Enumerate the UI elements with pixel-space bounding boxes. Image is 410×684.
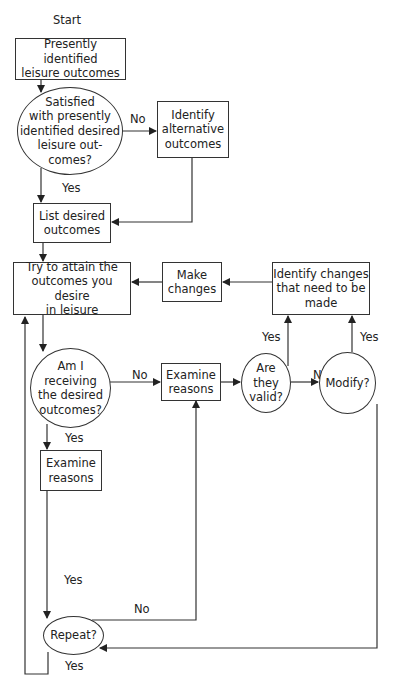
repeat-decision: Repeat? xyxy=(43,616,104,655)
examine-reasons-no-text: Examine reasons xyxy=(166,368,216,397)
modify-decision-text: Modify? xyxy=(325,376,369,391)
try-attain-box: Try to attain the outcomes you desire in… xyxy=(13,262,131,315)
satisfied-decision: Satisfied with presently identified desi… xyxy=(17,87,123,175)
list-desired-text: List desired outcomes xyxy=(39,209,105,238)
repeat-no-label: No xyxy=(134,602,150,617)
receiving-yes-label: Yes xyxy=(65,431,84,446)
satisfied-decision-text: Satisfied with presently identified desi… xyxy=(20,95,120,168)
to-repeat-yes-label: Yes xyxy=(64,573,83,588)
receiving-no-label: No xyxy=(132,368,148,383)
identify-alternative-text: Identify alternative outcomes xyxy=(162,108,224,152)
make-changes-box: Make changes xyxy=(162,262,222,302)
modify-decision: Modify? xyxy=(319,352,376,414)
satisfied-yes-label: Yes xyxy=(62,181,81,196)
examine-reasons-yes-text: Examine reasons xyxy=(46,456,96,485)
valid-yes-label: Yes xyxy=(262,330,281,345)
repeat-yes-label: Yes xyxy=(65,659,84,674)
try-attain-text: Try to attain the outcomes you desire in… xyxy=(14,260,130,318)
present-outcomes-text: Presently identified leisure outcomes xyxy=(16,37,125,81)
valid-decision-text: Are they valid? xyxy=(249,361,283,405)
modify-yes-label: Yes xyxy=(360,330,379,345)
identify-changes-text: Identify changes that need to be made xyxy=(273,267,368,311)
examine-reasons-no-box: Examine reasons xyxy=(161,363,221,401)
present-outcomes-box: Presently identified leisure outcomes xyxy=(15,38,126,80)
make-changes-text: Make changes xyxy=(168,268,216,297)
valid-decision: Are they valid? xyxy=(241,353,291,413)
repeat-decision-text: Repeat? xyxy=(50,628,97,643)
identify-changes-box: Identify changes that need to be made xyxy=(272,262,370,315)
list-desired-box: List desired outcomes xyxy=(33,203,111,243)
receiving-decision: Am I receiving the desired outcomes? xyxy=(30,348,111,428)
identify-alternative-box: Identify alternative outcomes xyxy=(157,101,229,158)
start-label: Start xyxy=(53,13,81,28)
receiving-decision-text: Am I receiving the desired outcomes? xyxy=(38,359,103,417)
examine-reasons-yes-box: Examine reasons xyxy=(40,450,102,491)
satisfied-no-label: No xyxy=(130,112,146,127)
